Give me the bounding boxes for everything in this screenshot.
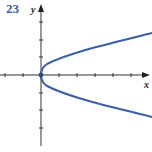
x-axis-label: x [143,79,149,90]
plot-area: x y [0,0,152,152]
y-axis-label: y [30,4,36,15]
x-axis-arrow-icon [142,72,150,78]
y-axis-arrow-icon [38,4,44,12]
vertex-point [39,73,44,78]
